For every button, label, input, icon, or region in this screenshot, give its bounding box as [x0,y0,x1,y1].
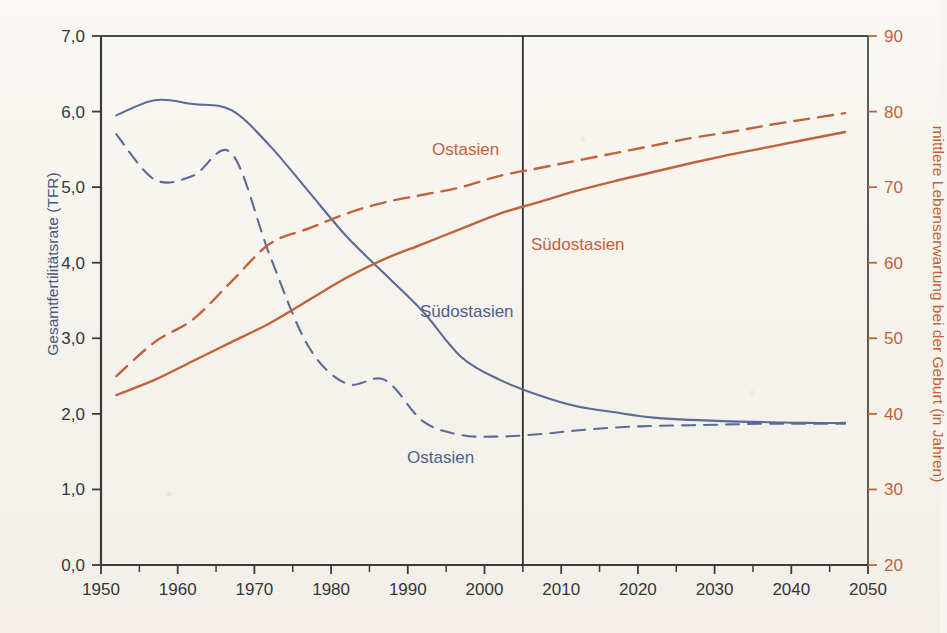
x-tick-label: 1990 [389,580,427,599]
x-tick-label: 2000 [466,580,504,599]
x-tick-label: 1950 [82,580,120,599]
y-tick-label: 6,0 [61,103,85,122]
x-tick-label: 1970 [235,580,273,599]
y-right-tick-label: 40 [884,405,903,424]
x-tick-label: 2030 [696,580,734,599]
annotation-ostasien-orange: Ostasien [432,140,499,159]
y-right-tick-label: 60 [884,254,903,273]
series-tfr-ostasien [116,134,845,437]
annotation-ostasien-blue: Ostasien [407,448,474,467]
annotation-suedostasien-blue: Südostasien [420,302,514,321]
y-tick-label: 3,0 [61,329,85,348]
y-right-tick-label: 30 [884,480,903,499]
annotation-suedostasien-orange: Südostasien [531,235,625,254]
series-life-suedostasien [116,132,845,395]
x-tick-label: 1980 [312,580,350,599]
y-tick-label: 5,0 [61,178,85,197]
y-right-tick-label: 50 [884,329,903,348]
y-right-tick-label: 80 [884,103,903,122]
plot-axes [101,36,868,565]
x-tick-label: 2010 [542,580,580,599]
y-right-tick-label: 20 [884,556,903,575]
x-tick-label: 2020 [619,580,657,599]
y-tick-label: 0,0 [61,556,85,575]
y-tick-label: 2,0 [61,405,85,424]
x-tick-label: 2040 [772,580,810,599]
x-tick-label: 2050 [849,580,887,599]
y-right-tick-label: 70 [884,178,903,197]
y-tick-label: 1,0 [61,480,85,499]
y-tick-label: 4,0 [61,254,85,273]
x-tick-label: 1960 [159,580,197,599]
y-tick-label: 7,0 [61,27,85,46]
y-right-tick-label: 90 [884,27,903,46]
